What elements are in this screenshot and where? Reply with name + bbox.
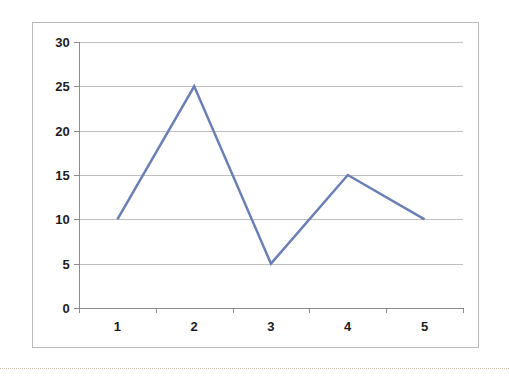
- x-axis-tick-mark: [463, 308, 464, 313]
- x-axis-tick-mark: [309, 308, 310, 313]
- x-axis-tick-label: 5: [421, 319, 428, 334]
- series-polyline: [117, 86, 424, 263]
- y-axis-tick-label: 0: [63, 301, 70, 316]
- x-axis-tick-label: 4: [344, 319, 351, 334]
- y-axis-tick-label: 25: [55, 79, 70, 94]
- x-axis-tick-mark: [79, 308, 80, 313]
- x-axis-tick-label: 3: [267, 319, 274, 334]
- y-axis-tick-label: 15: [55, 168, 70, 183]
- x-axis-tick-mark: [233, 308, 234, 313]
- line-series: [79, 42, 463, 308]
- page-divider-rule: [0, 368, 509, 369]
- x-axis-tick-mark: [156, 308, 157, 313]
- y-axis-tick-label: 10: [55, 212, 70, 227]
- x-axis-tick-mark: [386, 308, 387, 313]
- chart-container: 051015202530 12345: [32, 22, 479, 348]
- y-axis-tick-label: 30: [55, 35, 70, 50]
- y-axis-tick-label: 20: [55, 123, 70, 138]
- plot-area: 051015202530 12345: [79, 42, 463, 308]
- x-axis-tick-label: 1: [114, 319, 121, 334]
- y-axis-tick-label: 5: [63, 256, 70, 271]
- x-axis-line: [79, 308, 463, 309]
- x-axis-tick-label: 2: [190, 319, 197, 334]
